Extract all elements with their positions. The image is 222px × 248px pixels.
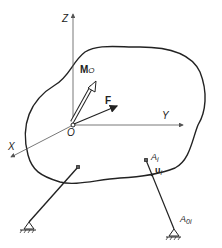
link-i <box>144 158 181 240</box>
point-a-i-label: Ai <box>150 152 159 163</box>
left-support-link <box>20 165 80 233</box>
origin-label: O <box>67 127 75 138</box>
z-axis-label: Z <box>61 13 69 24</box>
force-label: F <box>105 95 111 106</box>
point-a-0i-label: A0i <box>179 214 192 225</box>
y-axis-label: Y <box>162 110 170 121</box>
moment-label: MO <box>80 64 95 75</box>
rigid-body-outline <box>25 46 205 183</box>
rigid-body-diagram: Z Y X O MO F Ai ui <box>0 0 222 248</box>
x-axis <box>11 125 73 157</box>
unit-vector-u-i-label: ui <box>155 165 163 176</box>
x-axis-label: X <box>7 141 15 152</box>
